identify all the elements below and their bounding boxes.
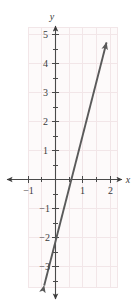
- x-tick-label-neg1: −1: [23, 185, 34, 196]
- y-tick-label-4: 4: [43, 58, 48, 69]
- graph-svg: −1 1 2 1 2 3 4 5 −1 −2 −3 x y: [0, 0, 138, 306]
- x-axis-label: x: [125, 174, 131, 185]
- coordinate-plane-graph: −1 1 2 1 2 3 4 5 −1 −2 −3 x y: [0, 0, 138, 306]
- x-tick-label-2: 2: [108, 185, 113, 196]
- y-tick-label-neg2: −2: [39, 232, 50, 243]
- y-tick-label-5: 5: [43, 29, 48, 40]
- y-tick-label-neg3: −3: [39, 261, 50, 272]
- y-tick-label-neg1: −1: [39, 203, 50, 214]
- y-tick-label-2: 2: [43, 116, 48, 127]
- y-tick-label-1: 1: [43, 145, 48, 156]
- y-axis-label: y: [49, 11, 55, 22]
- y-tick-label-3: 3: [43, 87, 48, 98]
- x-tick-label-1: 1: [80, 185, 85, 196]
